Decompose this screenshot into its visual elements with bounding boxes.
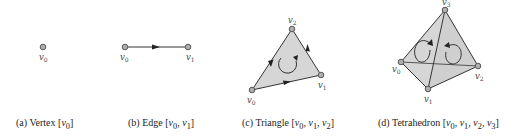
vertex-v0: [398, 59, 404, 65]
vertex-v1: [425, 86, 431, 92]
caption-triangle: (c) Triangle [v0, v1, v2]: [242, 117, 334, 131]
figure-edge: v0 v1: [120, 44, 195, 63]
vertex-label-v2: v2: [475, 71, 484, 82]
figure-vertex: v0: [39, 44, 48, 63]
vertex-v3: [442, 7, 448, 13]
figure-triangle: v0 v1 v2: [247, 15, 327, 106]
caption-tetrahedron: (d) Tetrahedron [v0, v1, v2, v3]: [378, 117, 499, 131]
vertex-label-v0: v0: [392, 64, 401, 75]
vertex-v0: [40, 44, 46, 50]
vertex-v2: [475, 63, 481, 69]
edge-arrow-icon: [306, 44, 311, 52]
caption-vertex: (a) Vertex [v0]: [16, 117, 73, 131]
vertex-label-v0: v0: [120, 52, 129, 63]
vertex-v0: [249, 87, 255, 93]
vertex-v1: [185, 44, 191, 50]
figure-tetrahedron: v0 v1 v2 v3: [392, 0, 484, 105]
vertex-v0: [122, 44, 128, 50]
vertex-label-v0: v0: [39, 52, 48, 63]
vertex-label-v3: v3: [442, 0, 451, 8]
vertex-label-v1: v1: [318, 80, 327, 91]
direction-arrow-icon: [152, 45, 160, 50]
vertex-v1: [318, 72, 324, 78]
vertex-label-v0: v0: [247, 95, 256, 106]
vertex-label-v2: v2: [288, 15, 297, 26]
vertex-v2: [289, 26, 295, 32]
caption-edge: (b) Edge [v0, v1]: [128, 117, 194, 131]
vertex-label-v1: v1: [424, 94, 433, 105]
vertex-label-v1: v1: [186, 52, 195, 63]
triangle-face: [252, 29, 321, 90]
